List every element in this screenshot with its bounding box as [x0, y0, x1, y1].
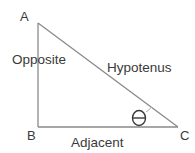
- side-label-adjacent: Adjacent: [71, 136, 124, 150]
- side-label-opposite: Opposite: [12, 53, 66, 67]
- vertex-label-c: C: [180, 129, 189, 142]
- vertex-label-b: B: [27, 129, 36, 142]
- side-label-hypotenuse: Hypotenus: [107, 61, 172, 75]
- right-triangle-diagram: A B C Opposite Hypotenus Adjacent: [0, 0, 195, 153]
- vertex-label-a: A: [20, 10, 29, 23]
- side-hypotenuse-line: [38, 23, 178, 127]
- theta-icon: [133, 111, 146, 126]
- angle-pointer-line: [146, 107, 152, 112]
